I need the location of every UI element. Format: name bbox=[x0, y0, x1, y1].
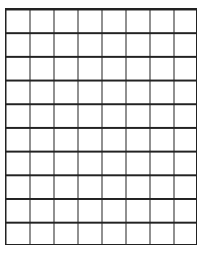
blank-grid bbox=[5, 8, 197, 245]
